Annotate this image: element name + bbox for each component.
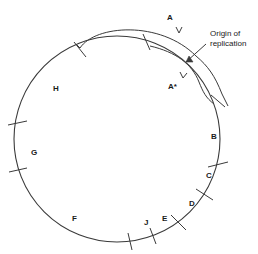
segment-label-c: C <box>206 172 212 180</box>
tick-mark <box>196 189 213 200</box>
origin-of-replication-annotation: Origin of replication <box>210 29 246 49</box>
segment-label-f: F <box>72 215 77 223</box>
segment-tick-group <box>8 34 228 250</box>
segment-label-j: J <box>144 219 148 227</box>
segment-label-e: E <box>162 215 167 223</box>
a-brace-right-tip <box>222 94 228 106</box>
segment-label-a-star: A* <box>168 83 177 91</box>
segment-label-b: B <box>211 133 217 141</box>
segment-label-h: H <box>53 85 59 93</box>
origin-annotation-line-1: Origin of <box>210 29 246 39</box>
tick-mark <box>143 34 150 50</box>
astar-brace-tail <box>199 82 214 104</box>
astar-brace-notch <box>180 72 187 78</box>
a-brace-right-tail <box>196 56 222 94</box>
origin-annotation-line-2: replication <box>210 39 246 49</box>
segment-label-a: A <box>167 14 173 22</box>
a-brace-notch <box>176 27 182 33</box>
tick-mark <box>208 162 228 167</box>
a-region-brace-arc <box>80 30 196 56</box>
segment-label-d: D <box>189 200 195 208</box>
segment-label-g: G <box>31 149 37 157</box>
tick-mark <box>8 121 27 125</box>
figure-canvas: A A* B C D E J F G H Origin of replicati… <box>0 0 258 254</box>
